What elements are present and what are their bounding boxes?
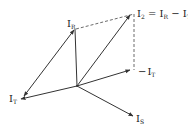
vector-i-2 [77,15,130,86]
label-i-r: IR [67,18,76,30]
vector-i-t [21,86,77,99]
vector-i-s [77,86,133,116]
vector-neg-i-t [77,70,130,86]
origin-point [76,85,78,87]
label-i-t: IT [9,93,17,105]
label-neg-i-t: −IT [138,66,155,78]
vector-i-t-to-i-r [24,30,74,96]
label-i-2-equation: I2 = IR − IT [137,8,188,20]
phasor-diagram: IR IT −IT IS I2 = IR − IT [0,0,188,128]
label-i-s: IS [136,113,144,125]
vector-i-r [75,29,77,86]
